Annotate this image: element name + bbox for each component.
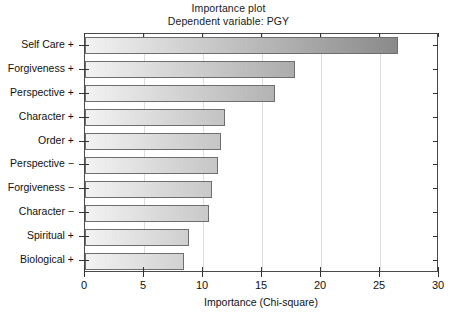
- x-axis-tick: [202, 272, 203, 277]
- right-axis-tick: [433, 93, 438, 94]
- y-axis-tick: [84, 164, 89, 165]
- y-axis-label: Self Care +: [0, 39, 74, 50]
- y-axis-label: Perspective −: [0, 158, 74, 169]
- right-axis-tick: [433, 117, 438, 118]
- top-axis-tick: [379, 33, 380, 37]
- y-axis-tick: [84, 188, 89, 189]
- right-axis-tick: [433, 260, 438, 261]
- y-axis-tick: [84, 260, 89, 261]
- right-axis-tick: [433, 45, 438, 46]
- plot-area: [84, 33, 438, 272]
- chart-title-block: Importance plot Dependent variable: PGY: [0, 2, 457, 28]
- x-axis-tick-inner: [84, 267, 85, 272]
- x-axis-tick: [261, 272, 262, 277]
- right-axis-tick: [433, 141, 438, 142]
- y-axis-tick-outer: [79, 236, 84, 237]
- x-axis-tick: [320, 272, 321, 277]
- top-axis-tick: [320, 33, 321, 37]
- x-axis-tick: [143, 272, 144, 277]
- y-axis-label: Character −: [0, 206, 74, 217]
- y-axis-tick-outer: [79, 260, 84, 261]
- top-axis-tick: [202, 33, 203, 37]
- x-axis-tick-label: 30: [418, 279, 457, 291]
- x-axis-tick-inner: [438, 267, 439, 272]
- bar-character: [85, 205, 209, 222]
- chart-subtitle: Dependent variable: PGY: [0, 15, 457, 28]
- y-axis-label: Character +: [0, 111, 74, 122]
- x-axis-tick-inner: [379, 267, 380, 272]
- top-axis-tick: [84, 33, 85, 37]
- x-axis-tick-label: 20: [300, 279, 340, 291]
- y-axis: Self Care +Forgiveness +Perspective +Cha…: [0, 33, 80, 272]
- y-axis-label: Order +: [0, 135, 74, 146]
- y-axis-tick-outer: [79, 164, 84, 165]
- x-axis-tick-label: 25: [359, 279, 399, 291]
- gridline: [380, 34, 381, 271]
- x-axis-title: Importance (Chi-square): [84, 296, 438, 308]
- y-axis-tick: [84, 236, 89, 237]
- right-axis-tick: [433, 188, 438, 189]
- right-axis-tick: [433, 212, 438, 213]
- y-axis-tick: [84, 212, 89, 213]
- bar-biological: [85, 253, 184, 270]
- bar-perspective: [85, 157, 218, 174]
- bar-order: [85, 133, 221, 150]
- y-axis-label: Forgiveness +: [0, 63, 74, 74]
- y-axis-tick-outer: [79, 45, 84, 46]
- y-axis-label: Biological +: [0, 254, 74, 265]
- y-axis-tick-outer: [79, 93, 84, 94]
- y-axis-label: Forgiveness −: [0, 182, 74, 193]
- importance-plot-figure: Importance plot Dependent variable: PGY …: [0, 0, 457, 321]
- top-axis-tick: [261, 33, 262, 37]
- y-axis-label: Perspective +: [0, 87, 74, 98]
- top-axis-tick: [438, 33, 439, 37]
- x-axis-tick-inner: [320, 267, 321, 272]
- y-axis-tick: [84, 117, 89, 118]
- y-axis-tick-outer: [79, 141, 84, 142]
- right-axis-tick: [433, 236, 438, 237]
- bar-self-care: [85, 37, 398, 54]
- chart-title: Importance plot: [0, 2, 457, 15]
- bar-spiritual: [85, 229, 189, 246]
- y-axis-tick: [84, 141, 89, 142]
- x-axis-tick: [379, 272, 380, 277]
- y-axis-tick: [84, 69, 89, 70]
- x-axis-tick: [438, 272, 439, 277]
- bar-character: [85, 109, 225, 126]
- x-axis-tick: [84, 272, 85, 277]
- x-axis-tick-label: 15: [241, 279, 281, 291]
- bar-forgiveness: [85, 61, 295, 78]
- x-axis-tick-inner: [143, 267, 144, 272]
- y-axis-tick-outer: [79, 69, 84, 70]
- x-axis-tick-label: 10: [182, 279, 222, 291]
- y-axis-tick-outer: [79, 212, 84, 213]
- top-axis-tick: [143, 33, 144, 37]
- x-axis-tick-label: 5: [123, 279, 163, 291]
- y-axis-tick: [84, 93, 89, 94]
- y-axis-tick-outer: [79, 117, 84, 118]
- bar-forgiveness: [85, 181, 212, 198]
- x-axis-tick-label: 0: [64, 279, 104, 291]
- x-axis-tick-inner: [261, 267, 262, 272]
- gridline: [321, 34, 322, 271]
- y-axis-label: Spiritual +: [0, 230, 74, 241]
- bar-perspective: [85, 85, 275, 102]
- right-axis-tick: [433, 69, 438, 70]
- right-axis-tick: [433, 164, 438, 165]
- x-axis-tick-inner: [202, 267, 203, 272]
- y-axis-tick: [84, 45, 89, 46]
- y-axis-tick-outer: [79, 188, 84, 189]
